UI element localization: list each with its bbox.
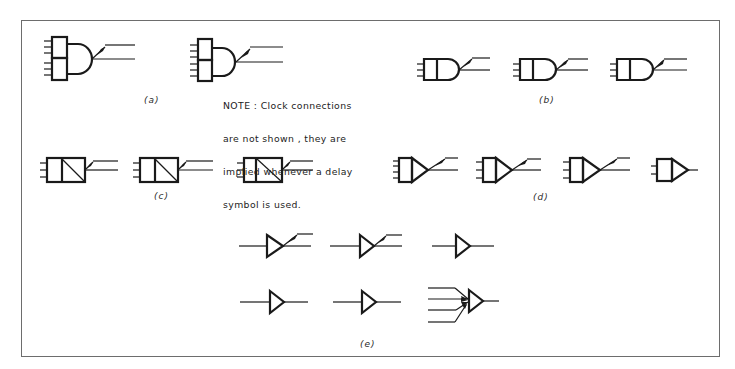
delay-output — [92, 45, 135, 59]
input-lines — [44, 41, 52, 75]
symbol-d3 — [563, 158, 630, 182]
symbol-c2 — [133, 158, 213, 182]
symbol-b3 — [610, 59, 687, 80]
symbol-b2 — [513, 59, 588, 80]
and-gate-shape — [212, 48, 235, 76]
input-box-lower — [52, 58, 67, 80]
symbol-a1 — [44, 37, 135, 80]
note-line-3: implied whenever a delay — [223, 166, 353, 177]
delay-output — [236, 47, 283, 62]
symbol-e6 — [428, 288, 499, 322]
symbol-a2 — [190, 39, 283, 81]
panel-label-d: (d) — [533, 192, 549, 202]
input-box-upper — [52, 37, 67, 58]
input-box-lower — [198, 60, 212, 81]
panel-label-c: (c) — [154, 191, 169, 201]
input-box-upper — [198, 39, 212, 60]
symbol-d4 — [651, 159, 698, 181]
note-line-2: are not shown , they are — [223, 133, 353, 144]
note-line-1: NOTE : Clock connections — [223, 100, 353, 111]
gate-body — [617, 59, 653, 80]
symbol-d2 — [476, 158, 541, 182]
panel-label-b: (b) — [539, 95, 555, 105]
panel-label-e: (e) — [360, 339, 376, 349]
gate-body — [424, 59, 459, 80]
and-gate-shape — [67, 44, 92, 74]
symbol-e5 — [333, 291, 401, 313]
clock-note: NOTE : Clock connections are not shown ,… — [223, 78, 353, 221]
symbol-e3 — [432, 235, 494, 257]
symbol-e2 — [330, 235, 402, 257]
note-line-4: symbol is used. — [223, 199, 353, 210]
symbol-e4 — [240, 291, 308, 313]
symbol-d1 — [393, 158, 458, 182]
panel-label-a: (a) — [144, 95, 160, 105]
symbol-e1 — [239, 234, 313, 257]
diagram-canvas — [0, 0, 735, 369]
symbol-b1 — [417, 58, 490, 80]
gate-body — [520, 59, 556, 80]
symbol-c1 — [40, 158, 118, 182]
